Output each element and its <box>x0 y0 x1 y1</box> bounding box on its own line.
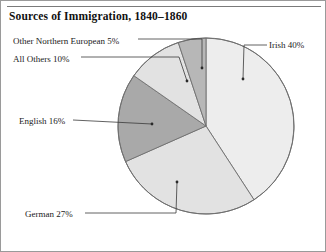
slice-label-other-northern-european: Other Northern European 5% <box>13 36 119 46</box>
slice-label-irish: Irish 40% <box>269 40 304 50</box>
slice-label-all-others: All Others 10% <box>13 54 70 64</box>
slice-label-german: German 27% <box>25 209 73 219</box>
figure-panel: Sources of Immigration, 1840–1860 <box>0 0 326 252</box>
slice-label-english: English 16% <box>19 116 65 126</box>
